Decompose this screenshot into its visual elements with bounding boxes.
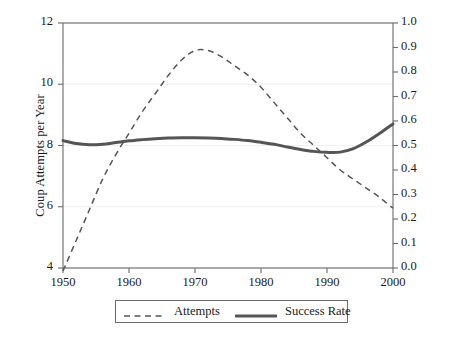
legend-label-attempts: Attempts (174, 304, 220, 319)
x-tick-1: 1960 (99, 275, 159, 290)
gridlines (63, 23, 393, 268)
y-right-tick-3: 0.3 (401, 186, 441, 201)
chart-legend: Attempts Success Rate (115, 300, 348, 323)
legend-label-success-rate: Success Rate (285, 304, 351, 319)
y-right-tick-0: 0.0 (401, 259, 441, 274)
series-line-attempts (63, 50, 393, 271)
legend-swatch-solid-icon (234, 307, 278, 317)
y-right-tick-10: 1.0 (401, 14, 441, 29)
y-right-tick-1: 0.1 (401, 235, 441, 250)
x-tick-0: 1950 (33, 275, 93, 290)
y-axis-left-title: Coup Attempts per Year (33, 36, 48, 276)
x-tick-3: 1980 (231, 275, 291, 290)
y-right-tick-4: 0.4 (401, 161, 441, 176)
x-tick-5: 2000 (363, 275, 423, 290)
x-tick-4: 1990 (297, 275, 357, 290)
legend-item-attempts[interactable]: Attempts (123, 301, 220, 322)
y-right-tick-7: 0.7 (401, 88, 441, 103)
y-left-tick-0: 4 (13, 259, 53, 274)
legend-swatch-dashed-icon (123, 307, 167, 317)
x-tick-2: 1970 (165, 275, 225, 290)
series-line-success-rate (63, 124, 393, 153)
y-right-tick-9: 0.9 (401, 39, 441, 54)
y-left-tick-3: 10 (13, 75, 53, 90)
legend-item-success-rate[interactable]: Success Rate (234, 301, 351, 322)
y-right-tick-5: 0.5 (401, 137, 441, 152)
chart-figure: Coup Attempts per Year Success Rate 4681… (0, 0, 451, 338)
y-right-tick-6: 0.6 (401, 112, 441, 127)
y-left-tick-2: 8 (13, 137, 53, 152)
y-right-tick-8: 0.8 (401, 63, 441, 78)
y-left-tick-1: 6 (13, 198, 53, 213)
y-right-tick-2: 0.2 (401, 210, 441, 225)
y-left-tick-4: 12 (13, 14, 53, 29)
data-series-layer (63, 50, 393, 271)
